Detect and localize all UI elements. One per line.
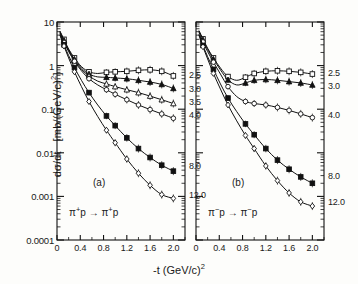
panel-tag: (b) xyxy=(232,177,244,188)
y-tick-label: 0.0001 xyxy=(2,235,54,246)
x-tick-label: 0.4 xyxy=(213,243,225,253)
x-tick-label: 1.6 xyxy=(144,243,156,253)
y-tick-label: 0.1 xyxy=(2,104,54,115)
x-tick-label: 0 xyxy=(194,243,199,253)
y-tick-label: 0.01 xyxy=(2,147,54,158)
series-momentum-label: 8.0 xyxy=(328,171,340,181)
reaction-final-particle: π−p xyxy=(240,207,257,218)
x-tick-label: 1.2 xyxy=(121,243,133,253)
y-tick-label: 10 xyxy=(2,17,54,28)
x-tick-label: 2.0 xyxy=(306,243,318,253)
x-tick-label: 0.8 xyxy=(98,243,110,253)
x-tick-label: 0.4 xyxy=(74,243,86,253)
x-tick-label: 2.0 xyxy=(167,243,179,253)
series-momentum-label: 12.0 xyxy=(189,190,206,200)
x-tick-label: 0.8 xyxy=(237,243,249,253)
x-tick-label: 0 xyxy=(55,243,60,253)
reaction-final-particle: π+p xyxy=(101,207,118,218)
series-momentum-label: 3.0 xyxy=(189,84,201,94)
series-momentum-label: 2.5 xyxy=(328,68,340,78)
y-tick-label: 0.001 xyxy=(2,191,54,202)
series-momentum-label: 4.0 xyxy=(189,110,201,120)
reaction-initial-particle: π+p xyxy=(69,207,86,218)
series-momentum-label: 4.0 xyxy=(328,110,340,120)
x-tick-label: 1.6 xyxy=(283,243,295,253)
reaction-arrow-icon: → xyxy=(89,207,99,218)
series-momentum-label: 2.5 xyxy=(189,70,201,80)
series-momentum-label: 12.0 xyxy=(328,197,345,207)
series-momentum-label: 3.5 xyxy=(189,97,201,107)
reaction-initial-particle: π−p xyxy=(208,207,225,218)
y-tick-label: 1 xyxy=(2,60,54,71)
figure-root: dσ/dt [mb/(GeV/c)2] -t (GeV/c)2 1010.10.… xyxy=(0,0,358,284)
series-momentum-label: 8.0 xyxy=(189,161,201,171)
x-tick-label: 1.2 xyxy=(260,243,272,253)
reaction-label: π−p → π−p xyxy=(208,205,257,218)
panel-tag: (a) xyxy=(93,177,105,188)
reaction-arrow-icon: → xyxy=(228,207,238,218)
reaction-label: π+p → π+p xyxy=(69,205,118,218)
series-momentum-label: 3.0 xyxy=(328,81,340,91)
